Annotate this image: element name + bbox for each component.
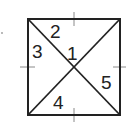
angle-label-3: 3 <box>32 41 43 62</box>
angle-label-1: 1 <box>67 43 78 64</box>
angle-label-5: 5 <box>101 72 112 93</box>
angle-label-2: 2 <box>50 21 61 42</box>
square-diagonals-diagram: 1 2 3 4 5 <box>0 0 126 127</box>
angle-label-4: 4 <box>53 92 64 113</box>
marker-dot <box>1 32 3 34</box>
